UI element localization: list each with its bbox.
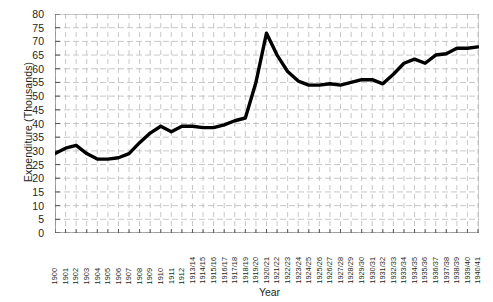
x-tick-label: 1910 <box>157 268 164 284</box>
expenditure-line-chart: Expenditure (Thousands) 0510152025303540… <box>0 0 493 302</box>
x-tick-label: 1917/18 <box>231 257 238 284</box>
y-tick-label: 55 <box>32 76 44 88</box>
x-tick-label: 1926/27 <box>326 257 333 284</box>
y-tick-label: 10 <box>32 200 44 212</box>
x-tick-label: 1935/36 <box>421 257 428 284</box>
x-tick-label: 1921/22 <box>273 257 280 284</box>
x-tick-label: 1925/26 <box>316 257 323 284</box>
y-tick-label: 65 <box>32 49 44 61</box>
x-tick-label: 1918/19 <box>242 257 249 284</box>
x-tick-label: 1928/29 <box>347 257 354 284</box>
x-tick-label: 1908 <box>136 268 143 284</box>
y-tick-label: 15 <box>32 186 44 198</box>
x-axis-label-text: Year <box>259 286 280 298</box>
x-tick-label: 1934/35 <box>411 257 418 284</box>
x-tick-label: 1936/37 <box>432 257 439 284</box>
x-tick-label: 1931/32 <box>379 257 386 284</box>
y-tick-label: 20 <box>32 172 44 184</box>
x-tick-label: 1919/20 <box>252 257 259 284</box>
x-tick-label: 1906 <box>115 268 122 284</box>
x-tick-label: 1930/31 <box>369 257 376 284</box>
x-tick-label: 1907 <box>125 268 132 284</box>
plot-area <box>55 14 479 233</box>
x-tick-label: 1924/25 <box>305 257 312 284</box>
x-tick-label: 1920/21 <box>263 257 270 284</box>
chart-canvas <box>55 14 479 233</box>
x-tick-label: 1914/15 <box>199 257 206 284</box>
x-tick-label: 1933/34 <box>400 257 407 284</box>
x-tick-label: 1902 <box>72 268 79 284</box>
y-tick-label: 75 <box>32 22 44 34</box>
x-tick-label: 1915/16 <box>210 257 217 284</box>
x-axis-label: Year <box>0 286 493 298</box>
y-tick-label: 35 <box>32 131 44 143</box>
x-tick-label: 1939/40 <box>464 257 471 284</box>
x-tick-label: 1938/39 <box>453 257 460 284</box>
y-tick-label: 70 <box>32 35 44 47</box>
x-tick-label: 1903 <box>83 268 90 284</box>
x-tick-label: 1929/30 <box>358 257 365 284</box>
x-tick-label: 1909 <box>146 268 153 284</box>
x-tick-label: 1927/28 <box>337 257 344 284</box>
y-tick-label: 50 <box>32 90 44 102</box>
x-tick-label: 1911 <box>168 268 175 284</box>
y-tick-label: 5 <box>38 213 44 225</box>
x-tick-label: 1937/38 <box>443 257 450 284</box>
y-tick-label: 0 <box>38 227 44 239</box>
x-tick-label: 1932/33 <box>390 257 397 284</box>
x-tick-label: 1940/41 <box>474 257 481 284</box>
y-tick-label: 45 <box>32 104 44 116</box>
x-tick-label: 1916/17 <box>221 257 228 284</box>
x-tick-label: 1912 <box>178 268 185 284</box>
y-tick-label: 60 <box>32 63 44 75</box>
y-tick-label: 80 <box>32 8 44 20</box>
y-axis-tick-labels: 05101520253035404550556065707580 <box>0 14 50 233</box>
y-tick-label: 40 <box>32 118 44 130</box>
y-tick-label: 30 <box>32 145 44 157</box>
x-axis-tick-labels: 1900190119021903190419051906190719081909… <box>55 236 479 284</box>
x-tick-label: 1922/23 <box>284 257 291 284</box>
x-tick-label: 1913/14 <box>189 257 196 284</box>
x-tick-label: 1904 <box>94 268 101 284</box>
y-tick-label: 25 <box>32 159 44 171</box>
x-tick-label: 1901 <box>62 268 69 284</box>
x-tick-label: 1900 <box>51 268 58 284</box>
x-tick-label: 1905 <box>104 268 111 284</box>
x-tick-label: 1923/24 <box>295 257 302 284</box>
